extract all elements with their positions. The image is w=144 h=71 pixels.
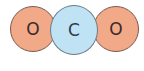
atom-label: O (26, 21, 39, 38)
atom-label: O (109, 21, 122, 38)
carbon-atom: C (50, 5, 98, 55)
oxygen-atom-right: O (93, 6, 139, 52)
atom-label: C (68, 22, 80, 39)
